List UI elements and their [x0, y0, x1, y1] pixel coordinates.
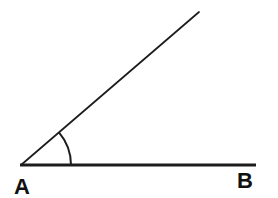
vertex-label-A: A [14, 174, 30, 198]
point-label-B: B [237, 168, 253, 193]
angle-diagram: A B [0, 0, 278, 198]
angle-diagram-canvas: A B [0, 0, 278, 198]
